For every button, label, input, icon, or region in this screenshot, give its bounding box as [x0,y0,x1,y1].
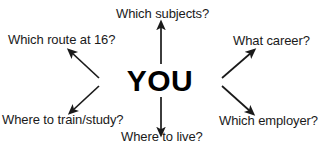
branch-label-live: Where to live? [121,129,203,144]
center-node-you: YOU [0,66,320,96]
radial-diagram: YOU Which subjects? Which route at 16? W… [0,0,320,150]
branch-label-route: Which route at 16? [8,32,115,47]
branch-label-employer: Which employer? [219,113,318,128]
branch-label-subjects: Which subjects? [116,6,209,21]
branch-label-career: What career? [233,33,310,48]
branch-label-train-study: Where to train/study? [2,112,123,127]
